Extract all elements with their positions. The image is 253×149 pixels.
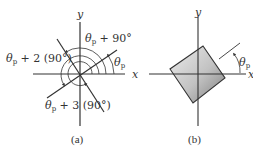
principal-direction-line: [219, 43, 240, 59]
label-theta-p-plus-2x90: θp + 2 (90°): [6, 52, 72, 66]
label-theta-p: θp: [114, 56, 126, 70]
figure: y θp + 90° θp θp + 2 (90°) θp + 3 (90°) …: [0, 0, 253, 149]
y-axis-label: y: [76, 8, 84, 21]
label-theta-p-plus-3x90: θp + 3 (90°): [45, 99, 111, 113]
caption-a: (a): [71, 133, 84, 146]
y-axis-label-b: y: [194, 6, 202, 19]
label-theta-p-plus-90: θp + 90°: [85, 32, 132, 46]
x-axis-label-b-left: x: [132, 68, 139, 81]
diagram-b: y x x θp (b): [132, 6, 253, 146]
caption-b: (b): [188, 133, 201, 146]
label-theta-p-b: θp: [239, 56, 251, 70]
diagram-a: y θp + 90° θp θp + 2 (90°) θp + 3 (90°) …: [6, 8, 132, 146]
